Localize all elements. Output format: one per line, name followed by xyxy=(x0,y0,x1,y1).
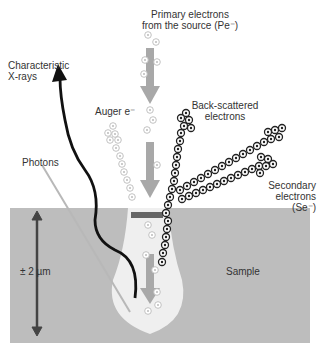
primary-electrons-label: Primary electrons from the source (Pe⁻) xyxy=(136,9,244,31)
photons-label: Photons xyxy=(22,157,59,168)
diagram: Primary electrons from the source (Pe⁻) … xyxy=(0,0,319,351)
depth-label: ± 2 µm xyxy=(20,266,51,277)
surface-band xyxy=(131,212,163,218)
auger-electrons xyxy=(105,123,136,201)
xrays-label: Characteristic X-rays xyxy=(8,60,69,82)
backscattered-label: Back-scattered electrons xyxy=(185,100,265,122)
sample-label: Sample xyxy=(226,266,260,277)
secondary-electrons-label: Secondary electrons (Se⁻) xyxy=(252,180,316,213)
diagram-graphics xyxy=(0,0,319,351)
auger-label: Auger e⁻ xyxy=(95,106,135,117)
